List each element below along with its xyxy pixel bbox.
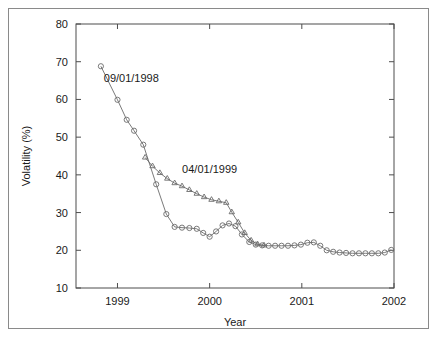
y-tick-label: 80 xyxy=(56,18,68,30)
x-tick-label: 2000 xyxy=(197,295,221,307)
y-tick-label: 20 xyxy=(56,244,68,256)
x-tick-label: 1999 xyxy=(105,295,129,307)
x-axis-title: Year xyxy=(224,316,247,328)
y-tick-label: 50 xyxy=(56,131,68,143)
y-tick-label: 30 xyxy=(56,207,68,219)
series-annotation: 09/01/1998 xyxy=(104,72,159,84)
series-circles xyxy=(98,64,394,256)
figure-container: 10203040506070801999200020012002YearVola… xyxy=(0,0,438,338)
y-tick-label: 70 xyxy=(56,56,68,68)
axis-labels: 10203040506070801999200020012002YearVola… xyxy=(20,18,406,328)
chart-plot: 10203040506070801999200020012002YearVola… xyxy=(0,0,438,338)
data-point-marker xyxy=(157,170,162,175)
series-annotation: 04/01/1999 xyxy=(182,163,237,175)
data-series xyxy=(98,64,394,256)
x-tick-label: 2001 xyxy=(290,295,314,307)
y-tick-label: 40 xyxy=(56,169,68,181)
data-point-marker xyxy=(165,176,170,181)
y-tick-label: 60 xyxy=(56,93,68,105)
y-tick-label: 10 xyxy=(56,282,68,294)
y-axis-title: Volatility (%) xyxy=(20,126,32,187)
axes xyxy=(76,24,394,288)
axis-frame xyxy=(76,24,394,288)
series-line xyxy=(101,66,391,253)
x-tick-label: 2002 xyxy=(382,295,406,307)
